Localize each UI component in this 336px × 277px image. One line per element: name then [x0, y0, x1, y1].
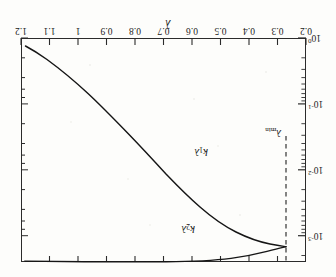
annotation-lambda-min: λmin [265, 128, 281, 140]
lambda-min-subscript: min [265, 126, 276, 134]
ytick-mantissa-0: 10 [311, 33, 321, 43]
ytick-exponent-0: 0 [308, 38, 311, 45]
rotated-page-content: 0.2 0.3 0.4 0.5 0.6 0.7 0.8 0.9 1 1.1 1.… [0, 0, 336, 277]
figure-root: 0.2 0.3 0.4 0.5 0.6 0.7 0.8 0.9 1 1.1 1.… [0, 0, 336, 277]
xaxis-title: λ [0, 16, 336, 31]
scan-noise [70, 64, 266, 226]
ytick-label-3: 10-3 [308, 231, 334, 241]
yaxis-minor-ticks [301, 58, 306, 256]
ytick-exponent-2: -2 [308, 170, 314, 177]
curve-label-k2-lambda: k2λ [182, 224, 195, 236]
curve-k2-lambda [25, 247, 286, 262]
k1-subscript: 1 [199, 145, 203, 154]
curve-label-k1-lambda: k1λ [195, 147, 208, 159]
ytick-label-1: 10-1 [308, 99, 334, 109]
lambda-min-glyph: λ [276, 128, 281, 140]
ytick-label-2: 10-2 [308, 165, 334, 175]
ytick-mantissa-1: 10 [314, 99, 324, 109]
k2-base: k [190, 224, 195, 236]
ytick-mantissa-3: 10 [314, 231, 324, 241]
ytick-label-0: 100 [308, 33, 334, 43]
ytick-exponent-3: -3 [308, 236, 314, 243]
curve-k1-lambda [26, 46, 287, 247]
xaxis-major-ticks [21, 38, 306, 45]
yaxis-right-ticks [21, 38, 28, 236]
yaxis-major-ticks [298, 38, 306, 236]
ytick-mantissa-2: 10 [314, 165, 324, 175]
plot-canvas [0, 0, 336, 277]
k1-base: k [203, 147, 208, 159]
ytick-exponent-1: -1 [308, 104, 314, 111]
k2-subscript: 2 [186, 222, 190, 231]
